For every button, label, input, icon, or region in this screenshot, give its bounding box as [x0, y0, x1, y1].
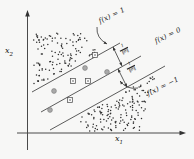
support-vector-circle: [48, 108, 53, 113]
support-vector-square: [68, 98, 73, 103]
y-axis-arrowhead: [25, 10, 30, 17]
scatter-cluster-upper: [33, 32, 96, 84]
x-axis-label: x1: [115, 135, 123, 145]
annotation-arrow: [97, 27, 107, 44]
support-vector-circle: [105, 70, 110, 75]
svm-margin-figure: x2 x1 f(x) = 1 f(x) = 0 f(x) = −1 1 ‖θ‖ …: [0, 0, 194, 159]
support-vector-circle: [83, 66, 88, 71]
support-vector-square: [86, 79, 91, 84]
svm-plot-canvas: [0, 0, 194, 159]
support-vector-square: [93, 53, 98, 58]
x-axis-arrowhead: [180, 131, 187, 136]
support-vector-square: [71, 79, 76, 84]
y-axis-label: x2: [5, 47, 13, 57]
margin-line-plus-one: [32, 43, 120, 92]
scatter-cluster-lower: [80, 76, 155, 131]
support-vector-circle: [52, 89, 57, 94]
